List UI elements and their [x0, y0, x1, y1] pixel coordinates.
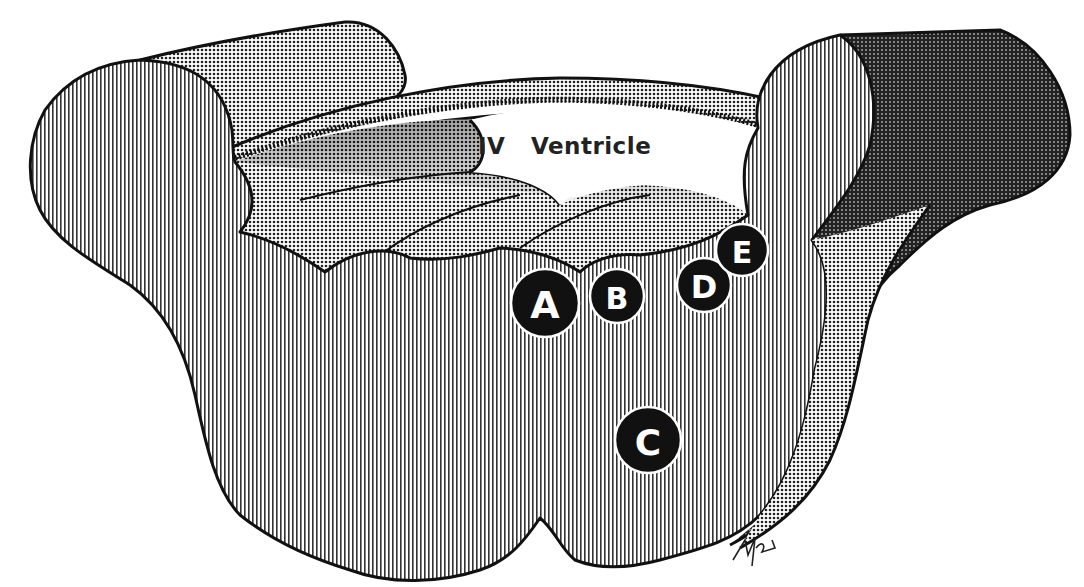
- artist-signature: [733, 538, 775, 566]
- brainstem-diagram: IV Ventricle A B C D E: [0, 0, 1084, 587]
- marker-a-label: A: [530, 283, 560, 327]
- marker-d-label: D: [691, 268, 718, 306]
- marker-e: E: [716, 224, 768, 276]
- marker-b-label: B: [606, 281, 629, 316]
- marker-b: B: [590, 269, 644, 323]
- marker-c-label: C: [635, 422, 661, 463]
- ventricle-label: IV Ventricle: [478, 133, 651, 159]
- marker-c: C: [615, 407, 681, 473]
- marker-a: A: [511, 269, 579, 337]
- marker-e-label: E: [732, 235, 753, 270]
